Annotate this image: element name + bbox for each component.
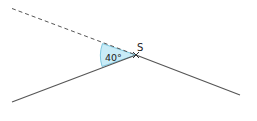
- angle-label: 40°: [105, 52, 122, 63]
- vertex-label: S: [137, 42, 143, 53]
- dashed-extension-line: [12, 9, 136, 56]
- angle-diagram: S 40°: [0, 0, 257, 121]
- outgoing-line: [136, 55, 240, 95]
